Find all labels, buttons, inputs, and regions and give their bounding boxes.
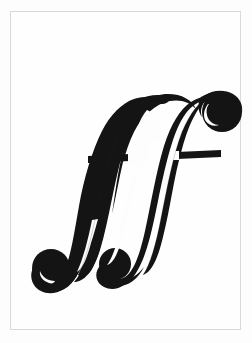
ff-ligature-ink bbox=[31, 91, 242, 293]
glyph-stage: ff fortissimo Bold italic ff ligature, m… bbox=[22, 24, 251, 341]
page-root: ff fortissimo Bold italic ff ligature, m… bbox=[0, 0, 252, 343]
crossbar-gap-left bbox=[128, 153, 134, 162]
photo-border-frame: ff fortissimo Bold italic ff ligature, m… bbox=[10, 11, 241, 330]
fortissimo-glyph bbox=[22, 24, 251, 341]
crossbar-right bbox=[177, 150, 221, 159]
